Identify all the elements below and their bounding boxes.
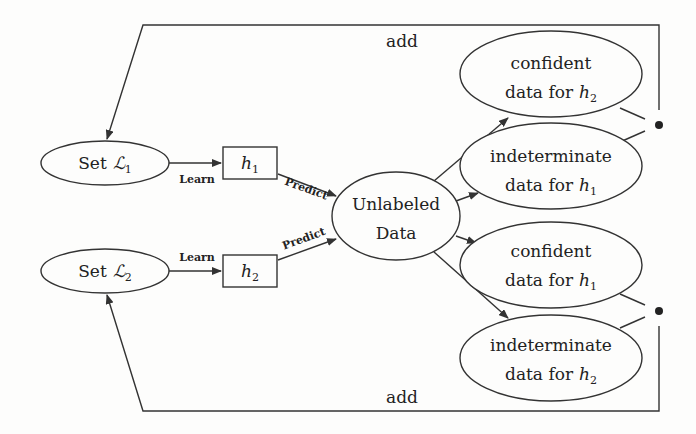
- arrow-to-indet-h1: [456, 193, 478, 201]
- svg-text:confident: confident: [511, 241, 592, 261]
- node-set-l1: Setℒ1: [41, 141, 169, 185]
- node-h2: h2: [223, 255, 277, 287]
- svg-text:data forh1: data forh1: [505, 175, 597, 198]
- node-confident-h1: confident data forh1: [460, 222, 642, 308]
- node-set-l2: Setℒ2: [41, 249, 169, 293]
- add-label-top: add: [386, 31, 418, 51]
- svg-text:Data: Data: [376, 223, 417, 243]
- node-unlabeled-data: Unlabeled Data: [332, 172, 460, 260]
- svg-text:Setℒ1: Setℒ1: [78, 153, 132, 176]
- svg-text:indeterminate: indeterminate: [490, 335, 612, 355]
- node-confident-h2: confident data forh2: [460, 31, 642, 117]
- merge-dot-top: [655, 121, 663, 129]
- merge-dot-bottom: [655, 307, 663, 315]
- svg-text:data forh1: data forh1: [505, 270, 597, 293]
- svg-text:confident: confident: [511, 53, 592, 73]
- svg-text:indeterminate: indeterminate: [490, 146, 612, 166]
- add-label-bottom: add: [386, 387, 418, 407]
- svg-text:data forh2: data forh2: [505, 364, 597, 387]
- predict-label-1: Predict: [283, 175, 330, 203]
- node-indeterminate-h2: indeterminate data forh2: [460, 315, 642, 401]
- svg-text:data forh2: data forh2: [505, 82, 597, 105]
- node-indeterminate-h1: indeterminate data forh1: [460, 123, 642, 209]
- co-training-diagram: Setℒ1 Setℒ2 h1 h2 Learn Learn Predict Pr…: [0, 0, 696, 434]
- predict-label-2: Predict: [281, 225, 328, 253]
- node-h1: h1: [223, 147, 277, 179]
- svg-text:Unlabeled: Unlabeled: [352, 194, 440, 214]
- learn-label-1: Learn: [179, 173, 215, 186]
- learn-label-2: Learn: [179, 251, 215, 264]
- svg-text:Setℒ2: Setℒ2: [78, 261, 132, 284]
